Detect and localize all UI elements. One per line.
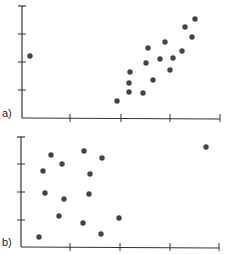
data-point-a	[114, 98, 119, 103]
data-point-b	[203, 144, 208, 149]
data-point-a	[179, 48, 184, 53]
data-point-a	[192, 16, 197, 21]
data-point-a	[167, 67, 172, 72]
data-point-b	[59, 161, 64, 166]
data-point-a	[150, 77, 155, 82]
data-point-b	[48, 152, 53, 157]
data-point-b	[40, 168, 45, 173]
data-point-b	[80, 220, 85, 225]
data-point-a	[170, 55, 175, 60]
data-point-b	[42, 190, 47, 195]
data-point-a	[143, 60, 148, 65]
data-point-b	[81, 148, 86, 153]
data-point-a	[162, 39, 167, 44]
scatter-plots: a)b)	[0, 0, 225, 254]
data-point-b	[56, 213, 61, 218]
data-point-b	[86, 191, 91, 196]
data-point-a	[27, 53, 32, 58]
data-point-a	[189, 34, 194, 39]
panel-label-b: b)	[2, 236, 12, 248]
data-point-a	[182, 24, 187, 29]
data-point-b	[116, 215, 121, 220]
data-point-b	[98, 231, 103, 236]
data-point-b	[87, 171, 92, 176]
data-point-a	[140, 90, 145, 95]
data-point-a	[126, 80, 131, 85]
panel-label-a: a)	[2, 107, 12, 119]
data-point-a	[127, 69, 132, 74]
data-point-b	[36, 234, 41, 239]
data-point-a	[145, 45, 150, 50]
data-point-b	[61, 196, 66, 201]
data-point-b	[99, 155, 104, 160]
data-point-a	[157, 56, 162, 61]
data-point-a	[126, 89, 131, 94]
